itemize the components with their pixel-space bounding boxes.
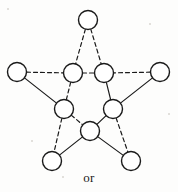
graph-edge-e14 <box>59 137 82 155</box>
pentagram-graph-canvas <box>0 0 178 192</box>
graph-node-bottom-right <box>122 152 141 171</box>
graph-edge-e4 <box>24 78 56 103</box>
graph-edge-e10 <box>71 115 83 125</box>
graph-edge-e9 <box>106 82 110 100</box>
graph-node-inner-r <box>104 100 123 119</box>
graph-edge-e1 <box>76 29 86 64</box>
pentagram-graph-figure: or <box>0 0 178 192</box>
graph-node-inner-b <box>81 122 100 141</box>
graph-node-inner-l <box>55 100 74 119</box>
scan-speck <box>149 23 151 25</box>
graph-node-left-outer <box>8 63 27 82</box>
graph-node-inner-tl <box>64 64 83 83</box>
graph-edge-e13 <box>116 118 128 152</box>
graph-edge-e2 <box>91 29 102 64</box>
graph-edge-e11 <box>97 116 106 125</box>
scan-speck <box>7 8 9 10</box>
graph-node-inner-tr <box>95 64 114 83</box>
graph-edge-e5 <box>114 72 151 73</box>
graph-edge-e15 <box>98 137 124 156</box>
graph-edge-e8 <box>66 82 70 100</box>
graph-node-right-outer <box>151 63 170 82</box>
graph-edge-e3 <box>27 72 64 73</box>
graph-edge-e6 <box>120 78 152 103</box>
graph-node-top <box>79 11 98 30</box>
figure-caption: or <box>0 170 178 186</box>
scan-speck <box>168 113 170 115</box>
node-layer <box>8 11 170 171</box>
scan-speck <box>31 140 33 142</box>
graph-node-bottom-left <box>43 152 62 171</box>
graph-edge-e12 <box>54 118 62 151</box>
